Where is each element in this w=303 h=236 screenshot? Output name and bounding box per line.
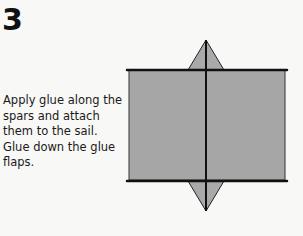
kite-assembly-diagram bbox=[0, 0, 303, 236]
